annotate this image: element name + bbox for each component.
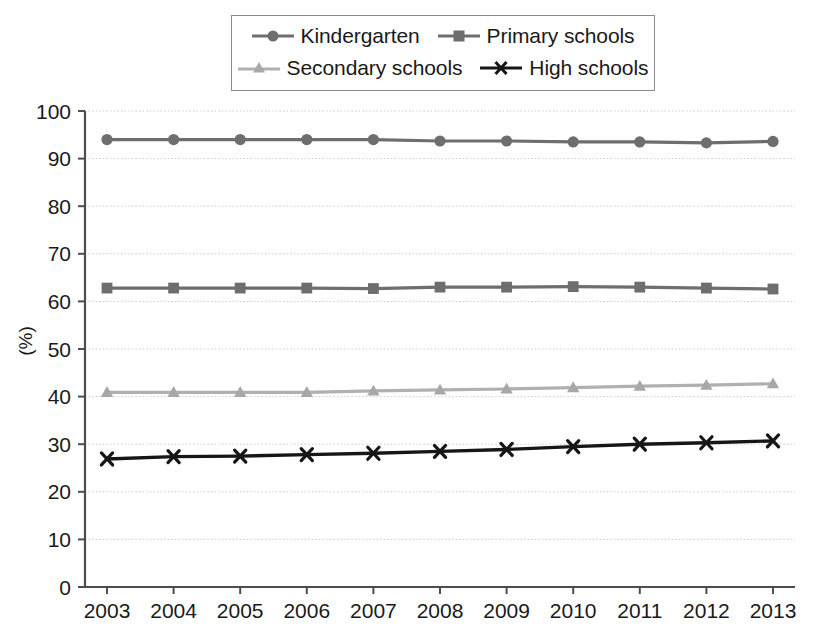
data-point-marker <box>435 282 446 293</box>
legend-row-bottom: Secondary schools High schools <box>232 53 654 83</box>
legend-marker-square-icon <box>438 26 480 46</box>
legend-entry-primary-schools: Primary schools <box>438 24 635 48</box>
data-point-marker <box>701 283 712 294</box>
data-point-marker <box>235 134 246 145</box>
y-tick-label: 90 <box>48 147 71 170</box>
x-tick-label: 2006 <box>283 599 330 622</box>
axis-ticks <box>78 111 773 594</box>
y-tick-label: 10 <box>48 528 71 551</box>
gridlines <box>85 111 795 539</box>
y-tick-label: 40 <box>48 385 71 408</box>
data-point-marker <box>168 134 179 145</box>
legend-label-kindergarten: Kindergarten <box>301 24 420 48</box>
data-point-marker <box>368 283 379 294</box>
y-axis-tick-labels: 0102030405060708090100 <box>36 100 71 599</box>
legend-marker-cross-icon <box>480 58 522 78</box>
data-point-marker <box>634 136 645 147</box>
data-point-marker <box>701 137 712 148</box>
legend-row-top: Kindergarten Primary schools <box>232 21 654 51</box>
x-tick-label: 2005 <box>217 599 264 622</box>
legend-label-secondary-schools: Secondary schools <box>287 56 463 80</box>
data-series-layer <box>101 134 779 465</box>
series-primary-schools <box>102 281 779 294</box>
y-tick-label: 20 <box>48 480 71 503</box>
x-tick-label: 2004 <box>150 599 197 622</box>
legend-label-high-schools: High schools <box>529 56 648 80</box>
data-point-marker <box>235 283 246 294</box>
data-point-marker <box>101 134 112 145</box>
x-axis-tick-labels: 2003200420052006200720082009201020112012… <box>84 599 797 622</box>
plot-area: 0102030405060708090100 20032004200520062… <box>0 0 820 633</box>
y-tick-label: 50 <box>48 338 71 361</box>
y-tick-label: 60 <box>48 290 71 313</box>
legend-label-primary-schools: Primary schools <box>487 24 635 48</box>
x-tick-label: 2003 <box>84 599 131 622</box>
x-tick-label: 2013 <box>750 599 797 622</box>
y-tick-label: 80 <box>48 195 71 218</box>
series-high-schools <box>101 435 778 465</box>
data-point-marker <box>501 282 512 293</box>
legend-entry-high-schools: High schools <box>480 56 648 80</box>
x-tick-label: 2009 <box>483 599 530 622</box>
y-tick-label: 30 <box>48 433 71 456</box>
y-tick-label: 70 <box>48 242 71 265</box>
line-chart: Kindergarten Primary schools <box>0 0 820 633</box>
data-point-marker <box>768 284 779 295</box>
series-kindergarten <box>101 134 778 149</box>
data-point-marker <box>501 135 512 146</box>
legend-entry-kindergarten: Kindergarten <box>252 24 420 48</box>
x-tick-label: 2008 <box>417 599 464 622</box>
data-point-marker <box>634 282 645 293</box>
chart-legend: Kindergarten Primary schools <box>231 15 655 91</box>
data-point-marker <box>301 134 312 145</box>
data-point-marker <box>568 281 579 292</box>
x-tick-label: 2012 <box>683 599 730 622</box>
axis-lines <box>85 111 795 587</box>
data-point-marker <box>568 136 579 147</box>
data-point-marker <box>767 136 778 147</box>
legend-marker-triangle-icon <box>238 58 280 78</box>
data-point-marker <box>434 135 445 146</box>
legend-marker-circle-icon <box>252 26 294 46</box>
x-tick-label: 2007 <box>350 599 397 622</box>
data-point-marker <box>102 283 113 294</box>
series-secondary-schools <box>101 378 779 397</box>
data-point-marker <box>301 283 312 294</box>
y-tick-label: 100 <box>36 100 71 123</box>
data-point-marker <box>168 283 179 294</box>
y-tick-label: 0 <box>59 576 71 599</box>
x-tick-label: 2010 <box>550 599 597 622</box>
legend-entry-secondary-schools: Secondary schools <box>238 56 463 80</box>
x-tick-label: 2011 <box>617 599 662 622</box>
data-point-marker <box>368 134 379 145</box>
